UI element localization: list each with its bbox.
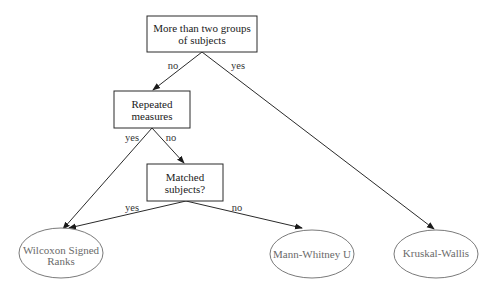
node-matched-line2: subjects?	[165, 183, 205, 195]
node-groups-line2: of subjects	[178, 34, 225, 46]
node-groups-line1: More than two groups	[153, 22, 250, 34]
edge-label-groups-no: no	[168, 60, 179, 71]
node-matched-line1: Matched	[166, 171, 205, 183]
node-kruskal-wallis-label: Kruskal-Wallis	[403, 247, 469, 259]
edge-label-matched-yes: yes	[125, 202, 139, 213]
edge-repeated-yes	[63, 128, 152, 229]
node-repeated-line2: measures	[132, 110, 173, 122]
leaf-node-mann-whitney: Mann-Whitney U	[270, 230, 354, 278]
edge-label-repeated-no: no	[166, 132, 177, 143]
edges	[63, 52, 434, 229]
leaf-node-wilcoxon: Wilcoxon Signed Ranks	[19, 228, 103, 278]
edge-label-groups-yes: yes	[231, 60, 245, 71]
node-repeated-line1: Repeated	[132, 98, 173, 110]
decision-node-matched: Matched subjects?	[147, 164, 223, 201]
edge-label-matched-no: no	[232, 202, 243, 213]
leaf-node-kruskal-wallis: Kruskal-Wallis	[394, 230, 478, 278]
node-mann-whitney-label: Mann-Whitney U	[273, 248, 351, 260]
edge-matched-no	[186, 201, 302, 228]
decision-tree-diagram: no yes yes no yes no More than two group…	[0, 0, 492, 297]
edge-label-repeated-yes: yes	[125, 132, 139, 143]
edge-groups-no	[153, 52, 202, 90]
node-wilcoxon-line2: Ranks	[47, 255, 75, 267]
decision-node-repeated: Repeated measures	[114, 91, 190, 128]
decision-node-groups: More than two groups of subjects	[147, 16, 257, 52]
